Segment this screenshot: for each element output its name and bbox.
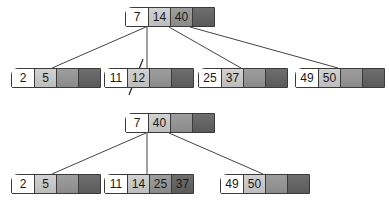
edge-root-child-1 [52,27,146,68]
key-cell [149,69,171,87]
key-cell: 40 [170,8,192,26]
before-root-node: 7 14 40 [125,7,215,27]
edge-root2-child-3 [169,133,263,174]
before-child-node-3: 25 37 [198,68,288,88]
key-cell: 5 [34,69,56,87]
key-cell: 25 [149,175,171,193]
key-cell: 25 [199,69,221,87]
key-cell [340,69,362,87]
before-child-node-1: 2 5 [11,68,101,88]
key-cell [192,8,214,26]
key-cell [78,175,100,193]
key-cell [170,114,192,132]
key-cell: 50 [318,69,340,87]
key-cell [243,69,265,87]
key-cell [78,69,100,87]
after-child-node-1: 2 5 [11,174,101,194]
after-child-node-2: 11 14 25 37 [104,174,194,194]
key-cell: 37 [221,69,243,87]
edge-root2-child-1 [52,133,146,174]
after-root-node: 7 40 [125,113,215,133]
key-cell [192,114,214,132]
key-cell: 11 [105,175,127,193]
before-child-node-2: 11 12 [104,68,194,88]
key-cell: 11 [105,69,127,87]
key-cell: 2 [12,175,34,193]
key-cell: 2 [12,69,34,87]
edge-root-child-3 [169,27,241,68]
before-child-node-4: 49 50 [295,68,385,88]
edge-root-child-4 [190,27,338,68]
key-cell [362,69,384,87]
key-cell [56,175,78,193]
key-cell-struck: 12 [127,69,149,87]
after-child-node-3: 49 50 [220,174,310,194]
tree-edges [0,0,389,203]
key-cell [265,69,287,87]
key-cell: 40 [148,114,170,132]
key-cell [287,175,309,193]
key-cell: 14 [148,8,170,26]
key-cell: 37 [171,175,193,193]
key-cell: 49 [296,69,318,87]
key-cell: 49 [221,175,243,193]
key-cell: 14 [127,175,149,193]
key-cell [171,69,193,87]
key-cell [56,69,78,87]
key-cell: 5 [34,175,56,193]
key-cell: 50 [243,175,265,193]
key-cell [265,175,287,193]
key-cell: 7 [126,8,148,26]
key-cell: 7 [126,114,148,132]
